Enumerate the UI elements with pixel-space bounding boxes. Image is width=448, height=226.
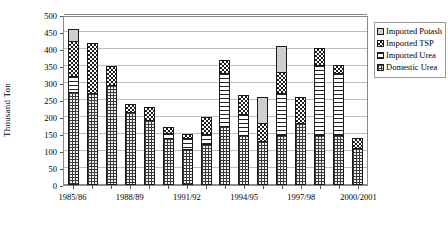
bar-segment — [68, 41, 79, 76]
stacked-bar[interactable] — [238, 95, 249, 185]
legend-swatch-domestic-urea — [377, 64, 384, 71]
y-tick-label: 300 — [27, 80, 57, 89]
stacked-bar[interactable] — [314, 48, 325, 185]
stacked-bar[interactable] — [106, 66, 117, 185]
bar-segment — [333, 135, 344, 185]
y-tick-label: 350 — [27, 63, 57, 72]
y-tick-mark — [60, 186, 63, 187]
y-tick-label: 500 — [27, 12, 57, 21]
bar-slot — [333, 17, 344, 185]
bar-slot — [68, 17, 79, 185]
stacked-bar[interactable] — [87, 43, 98, 185]
bar-slot — [106, 17, 117, 185]
x-tick-mark — [206, 185, 207, 189]
y-tick-mark — [60, 67, 63, 68]
bar-slot — [163, 17, 174, 185]
bar-segment — [182, 149, 193, 185]
bar-segment — [106, 66, 117, 85]
bar-slot — [87, 17, 98, 185]
legend-item-imported-urea: Imported Urea — [377, 50, 442, 61]
x-tick-label: 1991/92 — [173, 192, 201, 202]
bar-segment — [238, 135, 249, 185]
bar-segment — [333, 73, 344, 135]
x-tick-label: 1994/95 — [230, 192, 258, 202]
y-tick-mark — [60, 152, 63, 153]
bar-segment — [238, 95, 249, 114]
x-tick-label: 2000/2001 — [340, 192, 376, 202]
bar-segment — [276, 135, 287, 185]
x-tick-mark — [244, 185, 245, 189]
bar-slot — [295, 17, 306, 185]
y-tick-label: 200 — [27, 114, 57, 123]
y-tick-mark — [60, 50, 63, 51]
stacked-bar[interactable] — [295, 97, 306, 185]
x-tick-mark — [358, 185, 359, 189]
plot-area — [63, 16, 368, 186]
bar-segment — [314, 48, 325, 66]
bar-segment — [352, 148, 363, 185]
stacked-bar[interactable] — [125, 104, 136, 185]
y-tick-mark — [60, 33, 63, 34]
bar-segment — [201, 134, 212, 144]
x-tick-mark — [301, 185, 302, 189]
stacked-bar[interactable] — [68, 29, 79, 185]
bar-segment — [295, 123, 306, 185]
bar-segment — [68, 29, 79, 40]
legend-swatch-imported-potash — [377, 28, 384, 35]
bar-segment — [276, 93, 287, 135]
x-tick-mark — [73, 185, 74, 189]
stacked-bar[interactable] — [182, 134, 193, 185]
stacked-bar[interactable] — [163, 127, 174, 185]
bar-segment — [106, 85, 117, 185]
chart-legend: Imported Potash Imported TSP Imported Ur… — [374, 22, 446, 78]
legend-item-imported-tsp: Imported TSP — [377, 38, 442, 49]
bar-segment — [352, 138, 363, 148]
y-tick-mark — [60, 16, 63, 17]
x-tick-mark — [149, 185, 150, 189]
bar-segment — [125, 112, 136, 185]
bar-slot — [238, 17, 249, 185]
legend-swatch-imported-urea — [377, 52, 384, 59]
stacked-bar[interactable] — [144, 107, 155, 185]
y-tick-mark — [60, 169, 63, 170]
bar-segment — [219, 60, 230, 73]
stacked-bar[interactable] — [333, 65, 344, 185]
legend-swatch-imported-tsp — [377, 40, 384, 47]
stacked-bar[interactable] — [201, 117, 212, 185]
bar-segment — [314, 135, 325, 185]
y-tick-mark — [60, 135, 63, 136]
legend-label-imported-urea: Imported Urea — [386, 51, 436, 60]
y-tick-label: 150 — [27, 131, 57, 140]
bar-slot — [276, 17, 287, 185]
bar-segment — [144, 107, 155, 120]
bar-segment — [163, 138, 174, 185]
y-tick-label: 50 — [27, 165, 57, 174]
y-tick-label: 450 — [27, 29, 57, 38]
x-axis-labels: 1985/861988/891991/921994/951997/982000/… — [63, 192, 368, 206]
y-axis-title: Thousand Ton — [2, 0, 16, 50]
x-tick-label: 1985/86 — [59, 192, 87, 202]
bar-slot — [125, 17, 136, 185]
legend-label-domestic-urea: Domestic Urea — [386, 63, 437, 72]
x-tick-mark — [339, 185, 340, 189]
legend-item-imported-potash: Imported Potash — [377, 26, 442, 37]
stacked-bar[interactable] — [276, 46, 287, 185]
bar-segment — [257, 97, 268, 123]
legend-label-imported-tsp: Imported TSP — [386, 39, 434, 48]
x-tick-mark — [282, 185, 283, 189]
y-tick-label: 250 — [27, 97, 57, 106]
bar-segment — [314, 65, 325, 135]
bar-segment — [201, 117, 212, 134]
bar-slot — [201, 17, 212, 185]
bar-segment — [333, 65, 344, 72]
stacked-bar[interactable] — [219, 60, 230, 185]
y-tick-mark — [60, 101, 63, 102]
bar-segment — [182, 138, 193, 149]
stacked-bar[interactable] — [352, 138, 363, 185]
legend-label-imported-potash: Imported Potash — [386, 27, 442, 36]
y-tick-mark — [60, 118, 63, 119]
x-tick-label: 1988/89 — [116, 192, 144, 202]
bar-segment — [68, 76, 79, 92]
y-tick-label: 100 — [27, 148, 57, 157]
stacked-bar[interactable] — [257, 97, 268, 185]
